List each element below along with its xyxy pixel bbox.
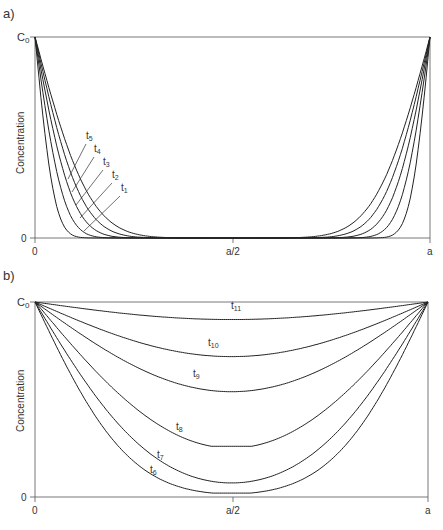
label-t9: t9	[193, 368, 200, 380]
curve-t7	[35, 302, 428, 483]
panel-b-c0-label: C0	[17, 296, 30, 310]
curve-t3	[35, 37, 430, 238]
panel-b: b) C0 0 0 a/2 a Concentration t6t7t8t9t1…	[3, 268, 431, 516]
panel-a-series-labels: t1t2t3t4t5	[68, 130, 128, 231]
panel-b-xend-label: a	[425, 505, 431, 516]
panel-a-y0-label: 0	[21, 233, 27, 244]
panel-b-x0-label: 0	[32, 505, 38, 516]
label-t6: t6	[150, 464, 157, 476]
label-t3: t3	[103, 156, 110, 168]
panel-a-tag: a)	[3, 6, 15, 21]
label-t5: t5	[86, 130, 93, 142]
label-t10: t10	[208, 337, 219, 349]
panel-a-c0-label: C0	[17, 31, 30, 45]
label-t7: t7	[157, 449, 164, 461]
panel-a-curves	[35, 37, 430, 238]
curve-t9	[35, 302, 428, 392]
panel-a-xmid-label: a/2	[226, 246, 240, 257]
curve-t1	[35, 37, 430, 238]
curve-t2	[35, 37, 430, 238]
curve-t6	[35, 302, 428, 493]
label-t4: t4	[94, 143, 101, 155]
panel-b-tag: b)	[3, 268, 15, 283]
curve-t8	[35, 302, 428, 446]
panel-a-xend-label: a	[427, 246, 433, 257]
panel-b-ylabel: Concentration	[15, 370, 26, 432]
label-t2: t2	[112, 169, 119, 181]
panel-a: a) C0 0 0 a/2 a Concentration t1t2t3t4t5	[3, 6, 433, 257]
label-t8: t8	[176, 421, 183, 433]
figure: a) C0 0 0 a/2 a Concentration t1t2t3t4t5…	[0, 0, 443, 530]
panel-a-ylabel: Concentration	[15, 112, 26, 174]
panel-b-y0-label: 0	[21, 492, 27, 503]
panel-a-x0-label: 0	[32, 246, 38, 257]
curve-t5	[35, 37, 430, 238]
panel-b-xmid-label: a/2	[226, 505, 240, 516]
panel-b-curves	[35, 302, 428, 493]
curve-t4	[35, 37, 430, 238]
label-t1: t1	[121, 182, 128, 194]
